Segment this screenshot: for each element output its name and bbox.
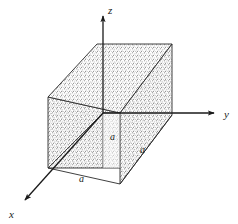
z-axis-label: z [108, 5, 112, 16]
x-axis-label: x [9, 209, 14, 220]
dimension-label-horizontal-edge: a [79, 174, 84, 184]
dimension-label-vertical-edge: a [110, 132, 115, 142]
cube-diagram-figure: z y x a a a [0, 0, 238, 224]
y-axis-label: y [224, 109, 229, 120]
dimension-label-depth-edge: a [140, 145, 145, 155]
cube-diagram-canvas [0, 0, 238, 224]
